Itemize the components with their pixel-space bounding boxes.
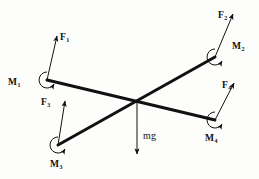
force-subscript-bottom-right: 4 bbox=[228, 85, 231, 91]
force-vectors bbox=[47, 14, 234, 145]
moment-symbol-top-right: M bbox=[232, 41, 241, 51]
force-arrow-bottom-left bbox=[58, 101, 65, 145]
weight-label: mg bbox=[143, 131, 156, 141]
force-label-bottom-left: F3 bbox=[41, 98, 50, 108]
moment-label-top-right: M2 bbox=[232, 42, 244, 52]
force-arrow-top-left bbox=[47, 36, 57, 80]
moment-symbol-bottom-right: M bbox=[205, 133, 214, 143]
force-subscript-top-right: 2 bbox=[224, 15, 227, 21]
moment-label-bottom-left: M3 bbox=[50, 160, 62, 170]
moment-label-top-left: M1 bbox=[8, 78, 20, 88]
moment-subscript-top-right: 2 bbox=[241, 46, 244, 52]
structure-members bbox=[47, 57, 215, 145]
member-upper-left-to-lower-right bbox=[47, 80, 215, 120]
free-body-diagram: F1 F2 F3 F4 M1 M2 M3 M4 mg bbox=[0, 0, 259, 179]
moment-label-bottom-right: M4 bbox=[205, 134, 217, 144]
diagram-canvas bbox=[0, 0, 259, 179]
force-label-top-left: F1 bbox=[60, 33, 69, 43]
moment-subscript-top-left: 1 bbox=[17, 82, 20, 88]
force-label-top-right: F2 bbox=[218, 11, 227, 21]
moment-subscript-bottom-right: 4 bbox=[214, 138, 217, 144]
force-subscript-top-left: 1 bbox=[66, 37, 69, 43]
force-subscript-bottom-left: 3 bbox=[47, 102, 50, 108]
force-label-bottom-right: F4 bbox=[222, 81, 231, 91]
moment-symbol-top-left: M bbox=[8, 77, 17, 87]
moment-symbol-bottom-left: M bbox=[50, 159, 59, 169]
moment-subscript-bottom-left: 3 bbox=[59, 164, 62, 170]
